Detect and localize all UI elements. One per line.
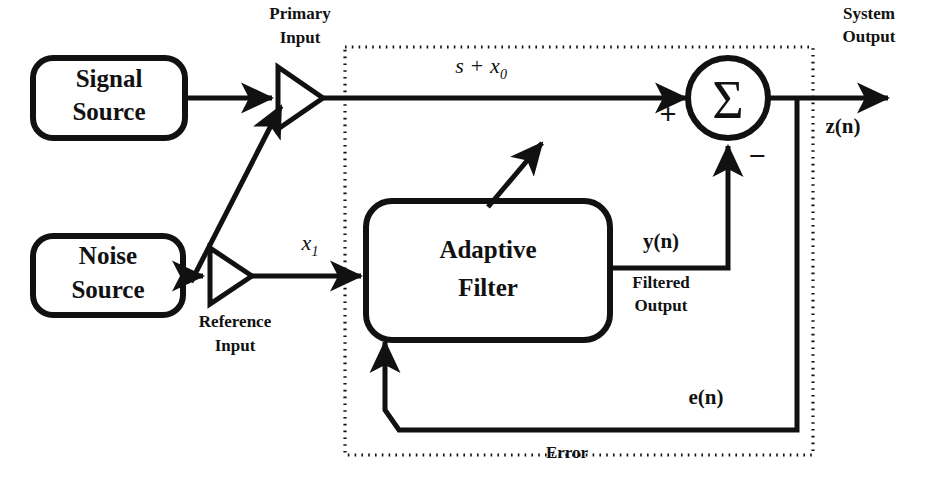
error-caption: Error: [546, 443, 589, 462]
reference-input-label-line1: Reference: [199, 312, 272, 331]
signal-source-label-line1: Signal: [76, 65, 143, 92]
adaptive-filter-label-line2: Filter: [458, 274, 518, 301]
primary-input-label-line2: Input: [280, 28, 321, 47]
plus-sign-label: +: [659, 97, 676, 130]
error-signal-label: e(n): [689, 385, 724, 409]
sigma-icon: Σ: [712, 70, 743, 130]
minus-sign-label: −: [748, 139, 765, 172]
filter-output-label: y(n): [643, 229, 679, 253]
primary-signal-label: s+x0: [455, 53, 507, 82]
system-output-label: z(n): [826, 114, 861, 138]
noise-source-label-line2: Source: [71, 276, 144, 303]
reference-signal-label: x1: [301, 230, 319, 259]
primary-input-amplifier: [278, 67, 323, 129]
diagram-canvas: Signal Source Primary Input Noise Source…: [0, 0, 926, 485]
noise-source-label-line1: Noise: [79, 242, 137, 269]
adaptive-filter-box: [366, 201, 610, 340]
primary-input-label-line1: Primary: [269, 4, 331, 23]
filter-output-caption-line1: Filtered: [632, 273, 690, 292]
adaptation-arrow-icon: [488, 143, 542, 207]
system-output-caption-line2: Output: [843, 27, 896, 46]
reference-input-label-line2: Input: [215, 336, 256, 355]
wire-noise-to-primary-amp-diagonal: [191, 106, 281, 282]
adaptive-filter-label-line1: Adaptive: [439, 236, 536, 263]
signal-source-label-line2: Source: [72, 98, 145, 125]
system-output-caption-line1: System: [843, 4, 895, 23]
filter-output-caption-line2: Output: [635, 296, 688, 315]
block-diagram: Signal Source Primary Input Noise Source…: [0, 0, 926, 485]
reference-input-amplifier: [210, 248, 252, 304]
